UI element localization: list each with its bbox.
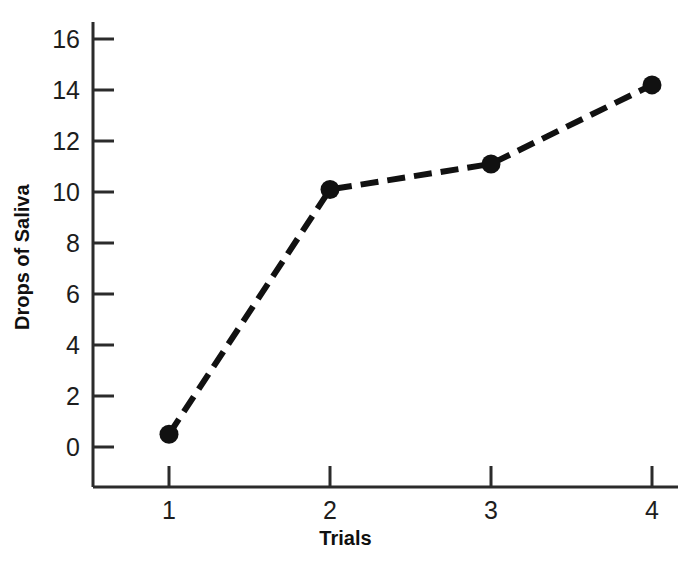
x-axis-title: Trials — [0, 528, 691, 548]
y-tick-label: 12 — [20, 129, 80, 154]
data-point-markers — [160, 75, 662, 443]
data-point — [643, 75, 662, 94]
y-tick-label: 4 — [20, 333, 80, 358]
data-point — [482, 154, 501, 173]
x-axis-ticks — [169, 466, 652, 487]
x-tick-label: 2 — [323, 498, 337, 523]
y-axis-title: Drops of Saliva — [12, 184, 32, 330]
x-tick-label: 4 — [645, 498, 659, 523]
line-chart-plot — [0, 0, 691, 568]
x-tick-label: 1 — [162, 498, 176, 523]
x-tick-label: 3 — [484, 498, 498, 523]
y-tick-label: 2 — [20, 384, 80, 409]
y-tick-label: 14 — [20, 78, 80, 103]
y-axis-ticks — [93, 39, 114, 447]
data-point — [160, 425, 179, 444]
y-tick-label: 0 — [20, 435, 80, 460]
y-tick-label: 16 — [20, 27, 80, 52]
data-series-line — [169, 85, 652, 434]
chart-container: 0246810121416 1234 Drops of Saliva Trial… — [0, 0, 691, 568]
data-point — [321, 180, 340, 199]
